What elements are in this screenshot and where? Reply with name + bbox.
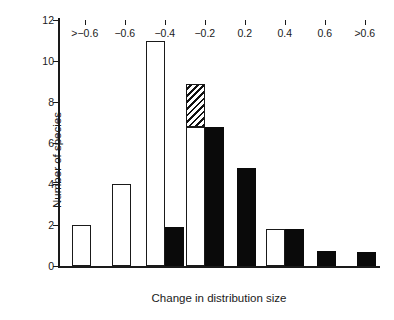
x-tick-label-6: 0.6 xyxy=(317,28,332,39)
x-tick-label-2: −0.4 xyxy=(154,28,175,39)
x-tick-label-1: −0.6 xyxy=(114,28,135,39)
x-tick-7 xyxy=(365,20,366,25)
x-tick-0 xyxy=(85,20,86,25)
bar-filled-3 xyxy=(205,127,224,266)
x-axis-line xyxy=(58,266,380,268)
histogram-figure: Number of species Change in distribution… xyxy=(0,0,394,320)
bar-filled-6 xyxy=(317,251,336,266)
bar-filled-4 xyxy=(237,168,256,266)
bar-hatched-3 xyxy=(186,84,205,127)
x-tick-1 xyxy=(125,20,126,25)
y-tick-label-2: 2 xyxy=(48,220,54,231)
plot-area: 024681012 >−0.6−0.6−0.4−0.20.20.40.6>0.6 xyxy=(58,20,378,266)
bar-filled-5 xyxy=(285,229,304,266)
bar-open-0 xyxy=(72,225,91,266)
y-tick-label-6: 6 xyxy=(48,138,54,149)
x-tick-label-3: −0.2 xyxy=(194,28,215,39)
bar-filled-7 xyxy=(357,252,376,266)
bar-open-2 xyxy=(146,41,165,267)
bar-open-1 xyxy=(112,184,131,266)
x-tick-4 xyxy=(245,20,246,25)
y-tick-label-8: 8 xyxy=(48,97,54,108)
y-tick-label-4: 4 xyxy=(48,179,54,190)
x-tick-label-4: 0.2 xyxy=(237,28,252,39)
y-tick-label-12: 12 xyxy=(42,15,54,26)
bar-filled-2 xyxy=(165,227,184,266)
x-tick-label-7: >0.6 xyxy=(354,28,375,39)
x-tick-6 xyxy=(325,20,326,25)
x-tick-5 xyxy=(285,20,286,25)
x-tick-3 xyxy=(205,20,206,25)
bar-open-3 xyxy=(186,127,205,266)
x-tick-label-0: >−0.6 xyxy=(71,28,98,39)
x-axis-title: Change in distribution size xyxy=(58,292,380,304)
x-tick-label-5: 0.4 xyxy=(277,28,292,39)
y-tick-label-0: 0 xyxy=(48,261,54,272)
bar-open-5 xyxy=(266,229,285,266)
y-tick-label-10: 10 xyxy=(42,56,54,67)
x-tick-2 xyxy=(165,20,166,25)
